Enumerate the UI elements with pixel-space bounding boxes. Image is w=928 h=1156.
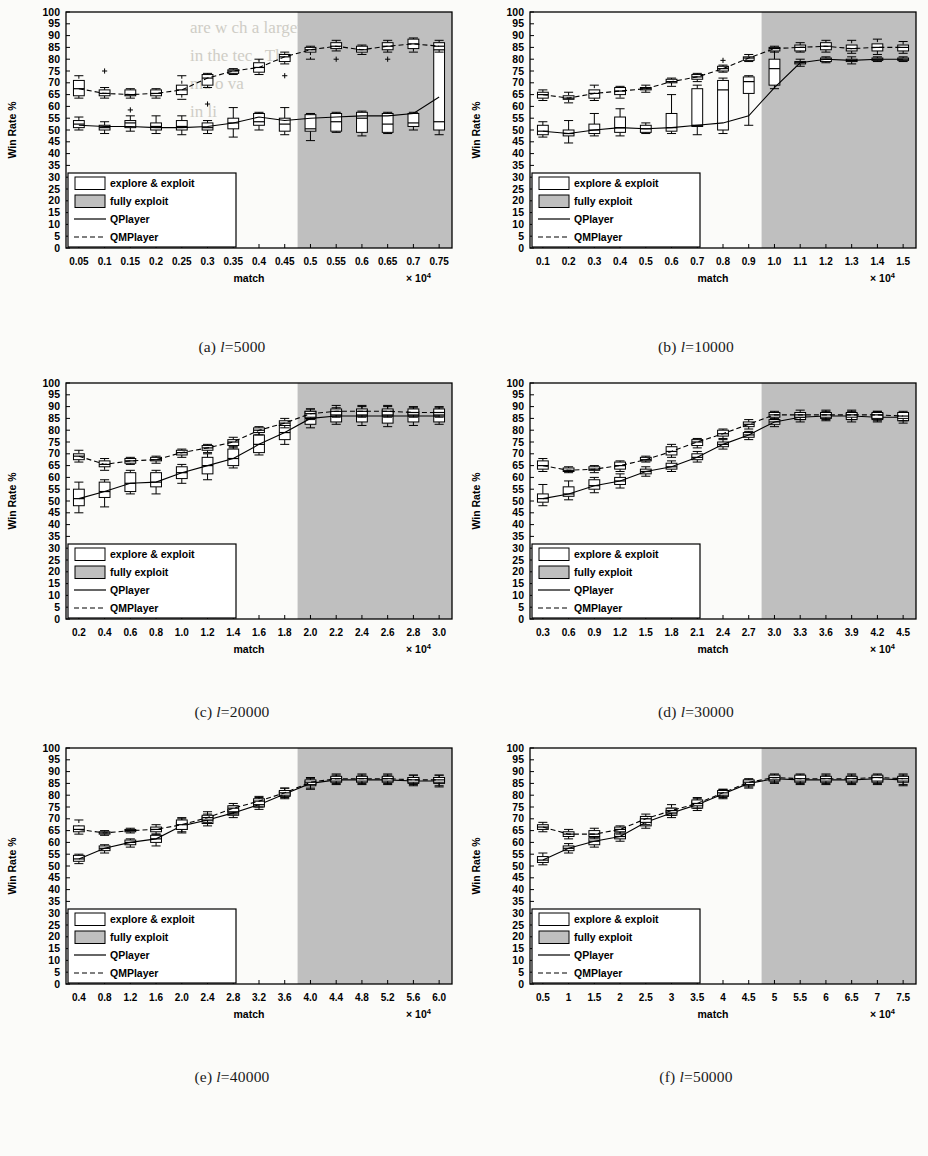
boxplot[interactable] (73, 117, 84, 130)
y-tick-label: 10 (48, 589, 60, 601)
panel-f[interactable]: 0510152025303540455055606570758085909510… (464, 736, 928, 1066)
legend-label: explore & exploit (574, 177, 659, 189)
fully-exploit-region (762, 383, 916, 619)
x-tick-label: 1.0 (768, 256, 782, 267)
y-tick-label: 45 (48, 871, 60, 883)
x-tick-label: 0.6 (562, 627, 576, 638)
boxplot[interactable] (640, 456, 651, 462)
boxplot[interactable] (769, 46, 780, 52)
caption-f: (f) l=50000 (464, 1068, 928, 1086)
boxplot[interactable] (125, 89, 136, 98)
x-tick-label: 4.8 (355, 992, 369, 1003)
boxplot[interactable] (202, 101, 213, 133)
y-tick-label: 70 (512, 76, 524, 88)
boxplot[interactable] (357, 111, 368, 136)
y-tick-label: 80 (48, 424, 60, 436)
x-tick-label: 0.7 (690, 256, 704, 267)
boxplot[interactable] (202, 444, 213, 452)
legend-item-explore-exploit[interactable]: explore & exploit (75, 913, 195, 926)
boxplot[interactable] (537, 459, 548, 472)
y-tick-label: 80 (512, 789, 524, 801)
panel-e[interactable]: 0510152025303540455055606570758085909510… (0, 736, 464, 1066)
fully-exploit-region (762, 748, 916, 984)
legend-item-fully-exploit[interactable]: fully exploit (75, 931, 169, 944)
y-tick-label: 50 (512, 860, 524, 872)
boxplot[interactable] (176, 76, 187, 100)
boxplot[interactable] (73, 854, 84, 863)
boxplot[interactable] (73, 820, 84, 834)
panel-b[interactable]: 0510152025303540455055606570758085909510… (464, 0, 928, 330)
legend-item-explore-exploit[interactable]: explore & exploit (539, 548, 659, 561)
boxplot[interactable] (537, 122, 548, 137)
boxplot[interactable] (176, 818, 187, 832)
x-tick-label: 3.3 (793, 627, 807, 638)
boxplot[interactable] (615, 86, 626, 98)
boxplot[interactable] (615, 109, 626, 136)
boxplot[interactable] (666, 78, 677, 86)
boxplot[interactable] (743, 76, 754, 126)
y-tick-label: 75 (512, 65, 524, 77)
legend-label: fully exploit (574, 195, 633, 207)
legend-item-fully-exploit[interactable]: fully exploit (75, 566, 169, 579)
boxplot[interactable] (151, 116, 162, 134)
y-axis-title: Win Rate % (6, 101, 18, 159)
boxplot[interactable] (434, 45, 445, 135)
boxplot[interactable] (125, 470, 136, 494)
boxplot[interactable] (718, 78, 729, 133)
boxplot[interactable] (279, 108, 290, 135)
boxplot[interactable] (176, 449, 187, 457)
legend-label: explore & exploit (110, 177, 195, 189)
boxplot[interactable] (73, 76, 84, 98)
y-tick-label: 100 (506, 6, 524, 18)
boxplot[interactable] (589, 113, 600, 135)
boxplot[interactable] (99, 480, 110, 507)
panel-cell-a: 0510152025303540455055606570758085909510… (0, 0, 464, 385)
boxplot[interactable] (563, 467, 574, 473)
boxplot[interactable] (563, 121, 574, 143)
legend-item-fully-exploit[interactable]: fully exploit (539, 931, 633, 944)
boxplot[interactable] (589, 85, 600, 100)
legend-item-fully-exploit[interactable]: fully exploit (539, 195, 633, 208)
boxplot[interactable] (176, 116, 187, 135)
boxplot[interactable] (254, 112, 265, 130)
y-tick-label: 35 (48, 895, 60, 907)
boxplot[interactable] (331, 112, 342, 132)
boxplot[interactable] (151, 834, 162, 846)
boxplot[interactable] (563, 481, 574, 500)
y-tick-label: 100 (42, 742, 60, 754)
y-tick-label: 30 (48, 907, 60, 919)
legend-item-explore-exploit[interactable]: explore & exploit (539, 913, 659, 926)
boxplot[interactable] (666, 444, 677, 457)
boxplot[interactable] (563, 92, 574, 103)
y-tick-label: 10 (48, 218, 60, 230)
y-tick-label: 75 (512, 436, 524, 448)
boxplot[interactable] (99, 122, 110, 134)
legend-item-explore-exploit[interactable]: explore & exploit (75, 177, 195, 190)
legend-label: QMPlayer (574, 231, 622, 243)
x-axis-exponent-sup: 4 (427, 642, 432, 651)
legend: explore & exploitfully exploitQPlayerQMP… (532, 544, 700, 618)
boxplot[interactable] (228, 447, 239, 468)
boxplot[interactable] (666, 461, 677, 472)
x-tick-label: 0.4 (98, 627, 112, 638)
panel-c[interactable]: 0510152025303540455055606570758085909510… (0, 371, 464, 701)
panel-a[interactable]: 0510152025303540455055606570758085909510… (0, 0, 464, 330)
y-tick-label: 20 (48, 565, 60, 577)
boxplot[interactable] (202, 73, 213, 87)
x-tick-label: 6 (823, 992, 829, 1003)
boxplot[interactable] (537, 484, 548, 505)
panel-d[interactable]: 0510152025303540455055606570758085909510… (464, 371, 928, 701)
legend: explore & exploitfully exploitQPlayerQMP… (68, 909, 236, 983)
boxplot[interactable] (692, 85, 703, 135)
y-tick-label: 5 (518, 230, 524, 242)
boxplot[interactable] (125, 107, 136, 131)
legend-item-explore-exploit[interactable]: explore & exploit (539, 177, 659, 190)
boxplot[interactable] (743, 420, 754, 429)
legend-item-fully-exploit[interactable]: fully exploit (539, 566, 633, 579)
legend-swatch-white (75, 177, 105, 190)
legend-item-explore-exploit[interactable]: explore & exploit (75, 548, 195, 561)
chart-c: 0510152025303540455055606570758085909510… (0, 371, 464, 701)
y-tick-label: 55 (48, 483, 60, 495)
y-tick-label: 60 (48, 836, 60, 848)
legend-item-fully-exploit[interactable]: fully exploit (75, 195, 169, 208)
